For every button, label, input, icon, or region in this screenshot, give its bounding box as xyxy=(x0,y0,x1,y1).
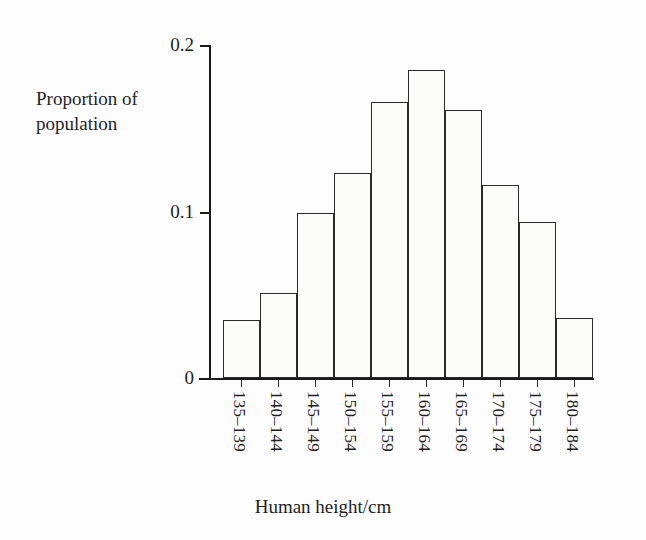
x-tick-label: 135–139 xyxy=(229,391,249,452)
y-axis-label: Proportion of population xyxy=(36,86,196,136)
histogram-bar xyxy=(371,102,408,378)
x-tick-0 xyxy=(241,380,243,387)
histogram-bar xyxy=(408,70,445,378)
x-tick-1 xyxy=(278,380,280,387)
x-tick-3 xyxy=(352,380,354,387)
x-tick-label: 145–149 xyxy=(303,391,323,452)
x-tick-8 xyxy=(537,380,539,387)
x-tick-label: 180–184 xyxy=(562,391,582,452)
plot-area: 00.10.2 135–139140–144145–149150–154155–… xyxy=(209,45,594,378)
x-axis-line xyxy=(199,378,594,380)
y-tick-label: 0.1 xyxy=(170,201,194,223)
x-tick-6 xyxy=(463,380,465,387)
x-tick-label: 175–179 xyxy=(525,391,545,452)
x-axis-title: Human height/cm xyxy=(0,496,646,518)
histogram-figure: Proportion of population 00.10.2 135–139… xyxy=(0,0,646,540)
histogram-bar xyxy=(297,213,334,378)
histogram-bar xyxy=(334,173,371,378)
x-tick-5 xyxy=(426,380,428,387)
histogram-bar xyxy=(223,320,260,378)
x-tick-label: 140–144 xyxy=(266,391,286,452)
x-tick-4 xyxy=(389,380,391,387)
x-tick-label: 155–159 xyxy=(377,391,397,452)
y-tick-label: 0.2 xyxy=(170,34,194,56)
histogram-bar xyxy=(260,293,297,378)
x-tick-2 xyxy=(315,380,317,387)
x-tick-7 xyxy=(500,380,502,387)
histogram-bar xyxy=(519,222,556,379)
y-tick-label: 0 xyxy=(185,367,195,389)
x-tick-label: 170–174 xyxy=(488,391,508,452)
histogram-bar xyxy=(482,185,519,378)
histogram-bar xyxy=(556,318,593,378)
x-tick-label: 150–154 xyxy=(340,391,360,452)
x-tick-9 xyxy=(574,380,576,387)
x-tick-label: 165–169 xyxy=(451,391,471,452)
bar-group xyxy=(209,45,594,378)
y-tick-0: 0 xyxy=(200,378,211,380)
x-tick-label: 160–164 xyxy=(414,391,434,452)
histogram-bar xyxy=(445,110,482,378)
